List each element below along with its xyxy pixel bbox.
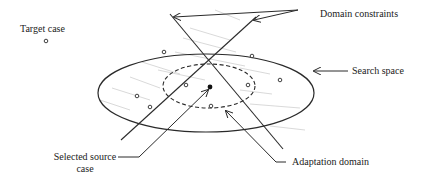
selected-source-case-point (208, 85, 213, 90)
target-case-label: Target case (20, 23, 65, 35)
diagram-canvas: Target case Domain constraints Search sp… (0, 0, 423, 183)
case-point (184, 83, 188, 87)
case-point (278, 78, 282, 82)
case-point (162, 50, 166, 54)
selected-source-case-label-line1: Selected source (50, 151, 120, 163)
search-space-label: Search space (352, 65, 404, 77)
case-point (250, 54, 254, 58)
selected-source-case-label-line2: case (50, 163, 120, 175)
search-space-ellipse (98, 54, 314, 132)
domain-constraints-arrow-1 (174, 10, 298, 17)
selected-source-case-label: Selected source case (50, 151, 120, 175)
adaptation-domain-leader (226, 111, 286, 162)
domain-constraints-label: Domain constraints (320, 8, 398, 20)
hatch-lines (100, 10, 305, 130)
adaptation-domain-label: Adaptation domain (292, 156, 369, 168)
case-point (135, 94, 139, 98)
case-point (148, 105, 152, 109)
target-case-point (44, 39, 48, 43)
constraint-line-1 (170, 14, 283, 149)
selected-source-case-leader (118, 90, 208, 157)
case-point (209, 104, 213, 108)
case-point (246, 83, 250, 87)
